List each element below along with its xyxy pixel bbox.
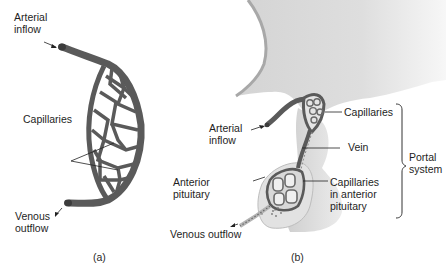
label-vein: Vein: [348, 141, 368, 153]
label-capillaries-in-anterior-pituitary: Capillaries in anterior pituitary: [330, 176, 379, 212]
arterial-end-a: [58, 44, 66, 51]
caption-a: (a): [93, 251, 106, 263]
label-venous-outflow-b: Venous outflow: [170, 228, 241, 240]
arrowhead-arterial-a: [51, 44, 57, 48]
label-capillaries-a: Capillaries: [23, 113, 72, 125]
label-capillaries-b: Capillaries: [344, 106, 393, 118]
label-portal-system: Portal system: [409, 151, 442, 175]
portal-system-bracket: [396, 104, 406, 218]
arterial-end-b: [264, 123, 269, 127]
label-anterior-pituitary: Anterior pituitary: [173, 176, 210, 200]
panel-a-capillary-bed: [44, 42, 141, 217]
label-arterial-inflow-b: Arterial inflow: [209, 122, 242, 146]
portal-system-diagram: Arterial inflow Capillaries Venous outfl…: [0, 0, 446, 271]
caption-b: (b): [291, 251, 304, 263]
arrowhead-venous-b: [230, 223, 235, 227]
hypothalamus-tissue: [236, 0, 446, 112]
label-venous-outflow-a: Venous outflow: [15, 210, 50, 234]
label-arterial-inflow-a: Arterial inflow: [14, 11, 47, 35]
arrowhead-venous-a: [55, 212, 59, 217]
venous-end-a: [64, 200, 72, 207]
